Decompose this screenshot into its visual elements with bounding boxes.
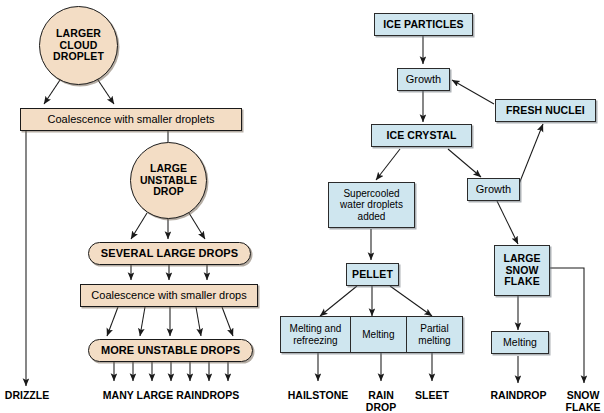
node-ice-crystal-label: ICE CRYSTAL	[387, 130, 457, 142]
output-sleet: SLEET	[406, 390, 458, 402]
output-drizzle: DRIZZLE	[0, 390, 54, 402]
cell-melting[interactable]: Melting	[351, 317, 407, 352]
node-growth-1[interactable]: Growth	[397, 68, 450, 91]
node-coalescence-smaller-droplets-label: Coalescence with smaller droplets	[48, 113, 215, 125]
output-drizzle-label: DRIZZLE	[5, 389, 49, 401]
node-larger-cloud-droplet-label: LARGER CLOUD DROPLET	[53, 28, 104, 63]
node-growth-2-label: Growth	[476, 183, 511, 195]
cell-melting-and-refreezing[interactable]: Melting and refreezing	[281, 317, 351, 352]
output-hailstone: HAILSTONE	[281, 390, 355, 402]
node-several-large-drops[interactable]: SEVERAL LARGE DROPS	[88, 242, 251, 265]
node-coalescence-smaller-droplets[interactable]: Coalescence with smaller droplets	[20, 108, 242, 131]
node-more-unstable-drops[interactable]: MORE UNSTABLE DROPS	[88, 339, 253, 362]
output-many-large-raindrops-label: MANY LARGE RAINDROPS	[103, 389, 239, 401]
node-fresh-nuclei-label: FRESH NUCLEI	[506, 105, 585, 117]
output-hailstone-label: HAILSTONE	[288, 389, 348, 401]
node-coalescence-smaller-drops-label: Coalescence with smaller drops	[91, 289, 246, 301]
node-several-large-drops-label: SEVERAL LARGE DROPS	[101, 247, 238, 259]
node-large-snow-flake-label: LARGE SNOW FLAKE	[503, 253, 540, 288]
node-more-unstable-drops-label: MORE UNSTABLE DROPS	[101, 344, 240, 356]
output-sleet-label: SLEET	[415, 389, 449, 401]
node-supercooled-water-droplets-added[interactable]: Supercooled water droplets added	[328, 182, 415, 228]
node-growth-1-label: Growth	[406, 73, 441, 85]
melting-outcomes-row: Melting and refreezing Melting Partial m…	[280, 316, 463, 353]
output-rain-drop-label: RAIN DROP	[366, 389, 396, 413]
node-fresh-nuclei[interactable]: FRESH NUCLEI	[495, 99, 596, 122]
cell-partial-melting-label: Partial melting	[418, 323, 450, 345]
output-snow-flake: SNOW FLAKE	[560, 390, 604, 413]
flowchart-canvas: LARGER CLOUD DROPLET Coalescence with sm…	[0, 0, 604, 413]
cell-melting-and-refreezing-label: Melting and refreezing	[290, 323, 342, 345]
output-raindrop: RAINDROP	[482, 390, 555, 402]
node-ice-particles[interactable]: ICE PARTICLES	[374, 13, 473, 36]
node-coalescence-smaller-drops[interactable]: Coalescence with smaller drops	[80, 284, 258, 307]
cell-melting-label: Melting	[362, 329, 394, 340]
node-large-unstable-drop-label: LARGE UNSTABLE DROP	[140, 163, 197, 198]
node-melting-right-label: Melting	[503, 337, 537, 349]
node-ice-crystal[interactable]: ICE CRYSTAL	[371, 124, 472, 147]
output-many-large-raindrops: MANY LARGE RAINDROPS	[83, 390, 259, 402]
node-larger-cloud-droplet[interactable]: LARGER CLOUD DROPLET	[39, 6, 118, 85]
node-supercooled-label: Supercooled water droplets added	[340, 188, 403, 222]
node-large-unstable-drop[interactable]: LARGE UNSTABLE DROP	[130, 142, 207, 219]
node-large-snow-flake[interactable]: LARGE SNOW FLAKE	[494, 245, 550, 296]
node-ice-particles-label: ICE PARTICLES	[383, 19, 463, 31]
node-pellet-label: PELLET	[352, 269, 393, 281]
output-rain-drop: RAIN DROP	[357, 390, 405, 413]
output-raindrop-label: RAINDROP	[490, 389, 546, 401]
node-pellet[interactable]: PELLET	[346, 263, 399, 286]
cell-partial-melting[interactable]: Partial melting	[407, 317, 462, 352]
node-melting-right[interactable]: Melting	[491, 331, 549, 354]
node-growth-2[interactable]: Growth	[467, 178, 520, 201]
output-snow-flake-label: SNOW FLAKE	[566, 389, 601, 413]
